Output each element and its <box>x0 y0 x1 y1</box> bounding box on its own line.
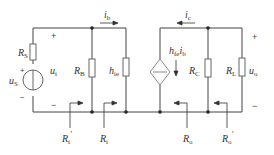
ri-port-arrow-icon <box>104 103 114 128</box>
ro-prime-port-arrow-icon <box>217 103 227 128</box>
rb-label: RB <box>73 65 85 78</box>
node-dot <box>90 110 94 114</box>
node-dot <box>206 26 210 30</box>
resistor-hie <box>123 58 129 76</box>
rs-label: RS <box>17 47 28 60</box>
node-dot <box>206 110 210 114</box>
node-dot <box>124 110 128 114</box>
ro-label: Ro <box>182 133 193 146</box>
resistor-rc <box>205 59 211 77</box>
ro-port-arrow-icon <box>177 103 187 128</box>
uo-label: uo <box>249 65 258 78</box>
node-dot <box>90 26 94 30</box>
us-minus-sign: − <box>20 93 25 102</box>
resistor-rl <box>239 58 245 76</box>
node-dot <box>158 110 162 114</box>
ui-minus-sign: − <box>51 100 56 110</box>
ri-prime-label: Ri′ <box>61 130 72 146</box>
ui-label: ui <box>50 65 57 78</box>
ro-prime-label: Ro′ <box>221 130 234 146</box>
input-loop-wire <box>33 28 126 58</box>
us-label: uS <box>9 75 18 88</box>
circuit-diagram: RS uS ui RB hie ib ic hfeib RC RL uo Ri′… <box>0 0 274 155</box>
hie-label: hie <box>109 65 119 78</box>
resistor-rb <box>89 59 95 77</box>
uo-minus-sign: − <box>252 101 257 111</box>
voltage-source-us-icon <box>23 70 43 90</box>
ui-plus-sign: + <box>51 31 56 41</box>
ri-prime-port-arrow-icon <box>70 103 80 128</box>
ic-label: ic <box>185 9 191 22</box>
hfe-ib-label: hfeib <box>169 45 186 58</box>
us-plus-sign: + <box>20 66 25 75</box>
ib-label: ib <box>104 9 111 22</box>
uo-plus-sign: + <box>252 32 257 42</box>
dependent-current-source-icon <box>150 59 170 85</box>
rl-label: RL <box>225 65 236 78</box>
ri-label: Ri <box>99 133 108 146</box>
resistor-rs <box>30 44 36 60</box>
rc-label: RC <box>188 65 200 78</box>
